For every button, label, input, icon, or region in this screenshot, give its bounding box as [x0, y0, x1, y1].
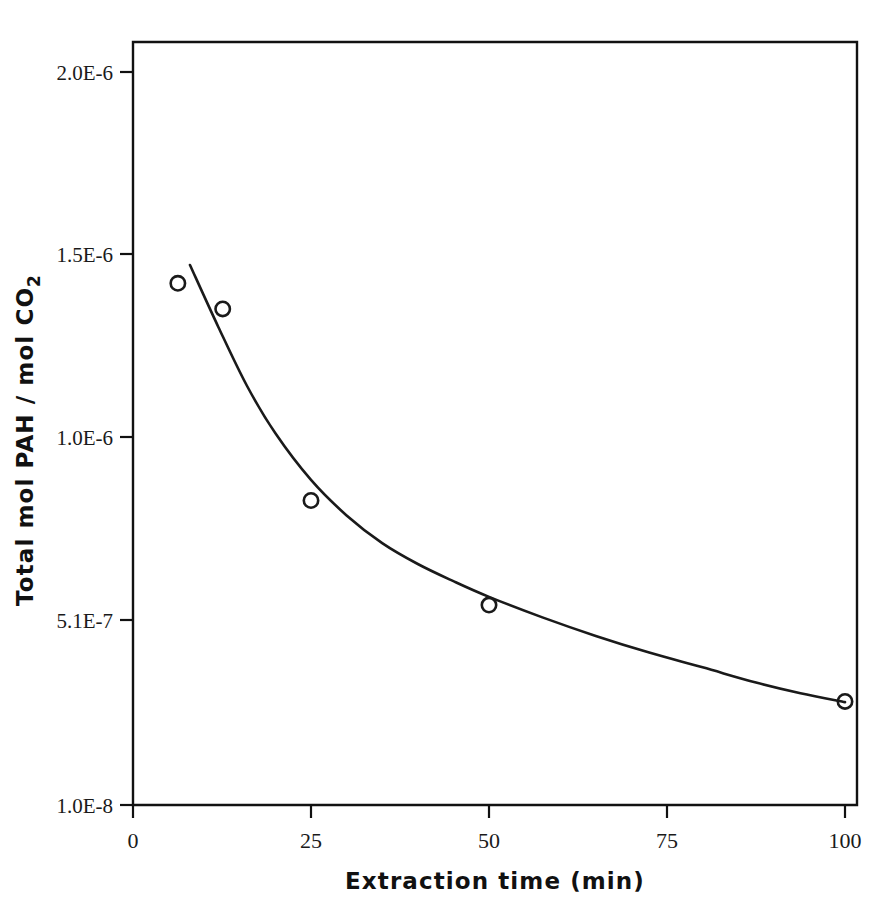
y-axis-title-subscript: 2	[24, 274, 44, 287]
y-axis-ticks	[120, 72, 133, 805]
scatter-plot-canvas: 2.0E-6 1.5E-6 1.0E-6 5.1E-7 1.0E-8 0 25 …	[0, 0, 876, 897]
chart-figure: 2.0E-6 1.5E-6 1.0E-6 5.1E-7 1.0E-8 0 25 …	[0, 0, 876, 897]
y-tick-labels: 2.0E-6 1.5E-6 1.0E-6 5.1E-7 1.0E-8	[56, 61, 113, 818]
data-point-marker	[482, 598, 496, 612]
x-tick-labels: 0 25 50 75 100	[128, 828, 862, 853]
x-axis-ticks	[133, 805, 845, 818]
y-tick-label-0: 2.0E-6	[56, 61, 113, 85]
data-point-marker	[304, 493, 318, 507]
y-axis-title: Total mol PAH / mol CO2	[12, 274, 44, 606]
y-axis-title-main: Total mol PAH / mol CO	[12, 287, 38, 606]
x-tick-label-0: 0	[128, 828, 139, 853]
data-point-marker	[171, 276, 185, 290]
y-tick-label-3: 5.1E-7	[56, 609, 113, 633]
axis-box	[133, 42, 857, 805]
data-point-marker	[216, 302, 230, 316]
fit-curve	[190, 265, 845, 702]
x-tick-label-3: 75	[656, 828, 678, 853]
fit-curve-path	[190, 265, 845, 702]
x-tick-label-4: 100	[829, 828, 862, 853]
y-tick-label-1: 1.5E-6	[56, 243, 113, 267]
y-tick-label-2: 1.0E-6	[56, 426, 113, 450]
x-axis-title: Extraction time (min)	[345, 868, 645, 894]
x-tick-label-1: 25	[300, 828, 322, 853]
plot-frame	[133, 42, 857, 805]
x-tick-label-2: 50	[478, 828, 500, 853]
data-point-markers	[171, 276, 853, 709]
y-tick-label-4: 1.0E-8	[56, 794, 113, 818]
